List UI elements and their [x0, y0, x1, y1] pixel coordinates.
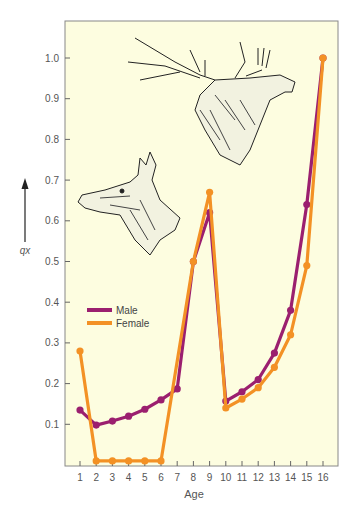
data-point [125, 457, 132, 464]
y-tick-label: 1.0 [45, 53, 59, 64]
x-tick-label: 14 [285, 472, 297, 483]
survivorship-chart: 0.10.20.30.40.50.60.70.80.91.0 123456789… [0, 0, 356, 518]
data-point [93, 457, 100, 464]
x-tick-label: 10 [220, 472, 232, 483]
data-point [222, 404, 229, 411]
x-tick-label: 11 [237, 472, 248, 483]
y-axis-arrow-icon [22, 178, 29, 242]
data-point [287, 307, 294, 314]
data-point [303, 201, 310, 208]
y-axis-title: qx [20, 245, 32, 256]
data-point [157, 457, 164, 464]
x-tick-label: 5 [142, 472, 148, 483]
data-point [319, 54, 326, 61]
data-point [93, 422, 100, 429]
x-tick-label: 12 [253, 472, 265, 483]
x-tick-label: 8 [191, 472, 197, 483]
x-tick-label: 16 [317, 472, 329, 483]
data-point [271, 364, 278, 371]
data-point [238, 388, 245, 395]
data-point [141, 406, 148, 413]
data-point [255, 384, 262, 391]
x-tick-label: 3 [110, 472, 116, 483]
legend-female-label: Female [116, 318, 150, 329]
x-tick-label: 7 [174, 472, 180, 483]
data-point [109, 457, 116, 464]
data-point [125, 413, 132, 420]
data-point [76, 406, 83, 413]
y-tick-label: 0.3 [45, 337, 59, 348]
x-axis-title: Age [184, 488, 204, 500]
x-tick-label: 15 [301, 472, 313, 483]
y-tick-label: 0.7 [45, 175, 59, 186]
y-tick-label: 0.6 [45, 215, 59, 226]
data-point [303, 262, 310, 269]
y-tick-label: 0.2 [45, 378, 59, 389]
data-point [76, 347, 83, 354]
y-tick-label: 0.5 [45, 256, 59, 267]
x-tick-label: 1 [77, 472, 83, 483]
data-point [109, 417, 116, 424]
x-tick-label: 9 [207, 472, 213, 483]
data-point [141, 457, 148, 464]
data-point [190, 258, 197, 265]
data-point [238, 395, 245, 402]
data-point [206, 189, 213, 196]
y-tick-label: 0.9 [45, 93, 59, 104]
x-tick-label: 4 [126, 472, 132, 483]
x-tick-label: 2 [93, 472, 99, 483]
data-point [287, 331, 294, 338]
legend-male-label: Male [116, 305, 138, 316]
data-point [271, 349, 278, 356]
x-tick-label: 6 [158, 472, 164, 483]
y-tick-label: 0.4 [45, 297, 59, 308]
y-tick-label: 0.8 [45, 134, 59, 145]
data-point [157, 396, 164, 403]
x-tick-label: 13 [269, 472, 281, 483]
y-tick-label: 0.1 [45, 419, 59, 430]
plot-area [65, 21, 338, 466]
